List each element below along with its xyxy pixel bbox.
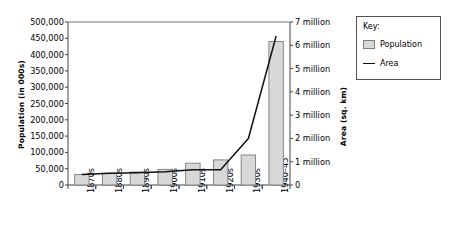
bar-1870s [75, 175, 89, 185]
bar-1940–45 [269, 42, 283, 185]
line-swatch-icon [363, 63, 375, 64]
chart-container: Population (in 000s) Area (sq. km) 050,0… [0, 0, 449, 249]
legend-label-population: Population [380, 40, 422, 49]
area-line [82, 36, 276, 175]
chart-legend: Key: Population Area [356, 16, 441, 80]
legend-label-area: Area [380, 59, 398, 68]
legend-item-population: Population [363, 38, 440, 51]
bar-1930s [241, 155, 255, 185]
bar-1910s [186, 163, 200, 185]
bar-1890s [130, 172, 144, 185]
legend-title: Key: [363, 22, 440, 31]
legend-item-area: Area [363, 57, 440, 70]
bar-1880s [102, 173, 116, 185]
bar-swatch-icon [363, 40, 375, 49]
